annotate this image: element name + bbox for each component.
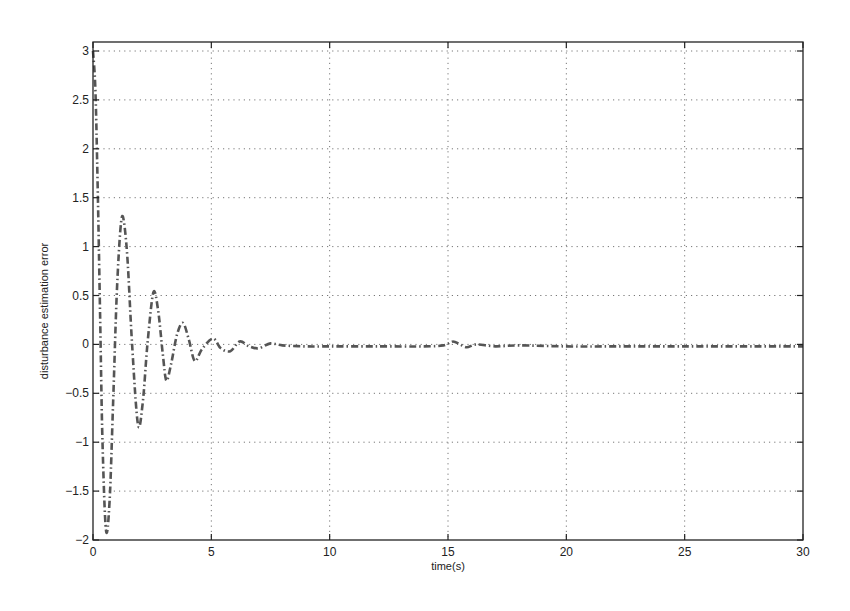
y-axis-tick-labels: 32.521.510.50−0.5−1−1.5−2 xyxy=(65,44,89,547)
axis-ticks xyxy=(93,42,803,540)
y-tick-label: 2.5 xyxy=(72,93,89,107)
y-tick-label: 0.5 xyxy=(72,289,89,303)
y-tick-label: 0 xyxy=(82,337,89,351)
y-tick-label: 1.5 xyxy=(72,191,89,205)
y-axis-label: disturbance estimation error xyxy=(38,242,50,379)
y-tick-label: −0.5 xyxy=(65,386,89,400)
x-tick-label: 15 xyxy=(441,545,455,559)
x-axis-tick-labels: 051015202530 xyxy=(90,545,810,559)
x-tick-label: 20 xyxy=(560,545,574,559)
y-tick-label: 3 xyxy=(82,44,89,58)
x-tick-label: 5 xyxy=(208,545,215,559)
y-tick-label: −1.5 xyxy=(65,484,89,498)
x-tick-label: 25 xyxy=(678,545,692,559)
y-tick-label: −2 xyxy=(75,533,89,547)
y-tick-label: 2 xyxy=(82,142,89,156)
x-tick-label: 10 xyxy=(323,545,337,559)
x-tick-label: 0 xyxy=(90,545,97,559)
line-chart: 051015202530 32.521.510.50−0.5−1−1.5−2 t… xyxy=(0,0,850,611)
y-tick-label: 1 xyxy=(82,240,89,254)
plot-frame xyxy=(93,42,803,540)
grid-lines xyxy=(93,42,803,540)
x-axis-label: time(s) xyxy=(431,560,465,572)
x-tick-label: 30 xyxy=(796,545,810,559)
y-tick-label: −1 xyxy=(75,435,89,449)
